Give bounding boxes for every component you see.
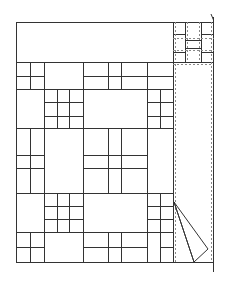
quilt-diagram (0, 0, 227, 281)
outer-frame (17, 23, 174, 263)
dashed-guides (173, 22, 214, 262)
folded-corner (174, 202, 208, 262)
